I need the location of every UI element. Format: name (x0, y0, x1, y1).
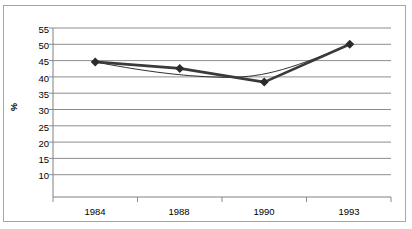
chart-frame: % 55 50 45 40 35 30 25 20 15 10 (3, 5, 406, 222)
x-tick-label: 1984 (84, 206, 105, 217)
x-tick-label: 1990 (253, 206, 274, 217)
x-tick-label: 1993 (338, 206, 359, 217)
x-axis-tick-labels: 1984 1988 1990 1993 (53, 6, 394, 223)
chart-plot-area: % 55 50 45 40 35 30 25 20 15 10 (4, 6, 407, 223)
x-tick-label: 1988 (168, 206, 189, 217)
